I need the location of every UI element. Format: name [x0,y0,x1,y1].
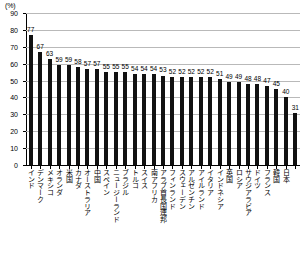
bar-slot[interactable]: 47 [262,13,271,165]
bar-value-label: 54 [131,65,138,72]
bar[interactable] [227,82,231,165]
bar-slot[interactable]: 63 [45,13,54,165]
bar[interactable] [237,82,241,165]
y-axis-tick-label: 50 [0,78,18,85]
bar-slot[interactable]: 49 [224,13,233,165]
x-axis-category-label: スイス [140,169,148,189]
bar-slot[interactable]: 55 [111,13,120,165]
y-axis-tick-label: 40 [0,94,18,101]
bar[interactable] [274,89,278,165]
bar[interactable] [208,77,212,165]
x-axis-category-label: オランダ [55,169,63,196]
bar[interactable] [218,79,222,165]
bar-value-label: 51 [216,70,223,77]
y-axis-tick-label: 80 [0,27,18,34]
bar-value-label: 48 [254,75,261,82]
bar[interactable] [199,77,203,165]
y-axis-tick-label: 10 [0,145,18,152]
x-axis-category-label: インド [27,169,35,189]
bar-slot[interactable]: 49 [234,13,243,165]
x-axis-category-label: ブラジル [121,169,129,196]
bar[interactable] [170,77,174,165]
bar[interactable] [85,69,89,165]
bar-slot[interactable]: 58 [73,13,82,165]
bar-slot[interactable]: 31 [291,13,300,165]
y-axis-tick-label: 70 [0,44,18,51]
bar-slot[interactable]: 48 [243,13,252,165]
bar-slot[interactable]: 57 [92,13,101,165]
bar-slot[interactable]: 54 [130,13,139,165]
y-axis-tick-label: 60 [0,61,18,68]
x-axis-category-label: フィンランド [168,169,176,209]
bar[interactable] [38,52,42,165]
bar[interactable] [114,72,118,165]
bar-value-label: 55 [122,63,129,70]
bar[interactable] [284,97,288,165]
x-axis-category-label: 中国 [93,169,101,182]
plot-area: 0102030405060708090 77676359595857575555… [26,13,300,165]
bar-value-label: 58 [74,58,81,65]
bar-value-label: 49 [235,73,242,80]
bar[interactable] [161,76,165,166]
bar-slot[interactable]: 48 [253,13,262,165]
bar-slot[interactable]: 67 [35,13,44,165]
bar-value-label: 77 [27,26,34,33]
bar[interactable] [29,35,33,165]
x-axis-labels: インドデンマークメキシコオランダ米国カナダオーストラリア中国スペインニュージーラ… [26,169,300,255]
x-axis-category-label: サウジアラビア [244,169,252,216]
bar-slot[interactable]: 55 [120,13,129,165]
x-axis-category-label: 米国 [65,169,73,182]
bar-slot[interactable]: 59 [64,13,73,165]
bar[interactable] [293,113,297,165]
bar-slot[interactable]: 52 [177,13,186,165]
bar-slot[interactable]: 59 [54,13,63,165]
bar-slot[interactable]: 54 [149,13,158,165]
y-axis-tick-label: 90 [0,10,18,17]
bar-value-label: 52 [207,68,214,75]
bar-slot[interactable]: 52 [187,13,196,165]
bar-value-label: 48 [244,75,251,82]
bar-slot[interactable]: 40 [281,13,290,165]
bar[interactable] [142,74,146,165]
bar[interactable] [67,65,71,165]
bar-value-label: 52 [197,68,204,75]
bar[interactable] [95,69,99,165]
bar[interactable] [104,72,108,165]
bar-slot[interactable]: 52 [196,13,205,165]
bar[interactable] [123,72,127,165]
bar[interactable] [246,84,250,165]
x-axis-category-label: カナダ [74,169,82,189]
bar-value-label: 52 [188,68,195,75]
x-axis-category-label: アラブ首長国連邦 [159,169,167,223]
bar-slot[interactable]: 52 [206,13,215,165]
bar[interactable] [48,59,52,165]
bar-slot[interactable]: 54 [139,13,148,165]
x-axis-category-label: メキシコ [46,169,54,196]
bar[interactable] [180,77,184,165]
bar-slot[interactable]: 55 [102,13,111,165]
bar[interactable] [133,74,137,165]
bar[interactable] [255,84,259,165]
x-axis-category-label: イタリア [206,169,214,196]
bar-slot[interactable]: 77 [26,13,35,165]
bar[interactable] [57,65,61,165]
bar[interactable] [152,74,156,165]
bar-slot[interactable]: 57 [83,13,92,165]
bar[interactable] [76,67,80,165]
x-axis-category-label: スウェーデン [178,169,186,209]
bar-value-label: 45 [273,80,280,87]
x-axis-category-label: アイルランド [197,169,205,209]
bar[interactable] [189,77,193,165]
y-axis-tick-label: 0 [0,162,18,169]
x-axis-category-label: デンマーク [36,169,44,203]
bar-value-label: 31 [292,104,299,111]
bar[interactable] [265,86,269,165]
bar-value-label: 49 [226,73,233,80]
bar-slot[interactable]: 52 [168,13,177,165]
bar-value-label: 54 [140,65,147,72]
bar-value-label: 55 [112,63,119,70]
bar-slot[interactable]: 45 [272,13,281,165]
bar-slot[interactable]: 53 [158,13,167,165]
bar-slot[interactable]: 51 [215,13,224,165]
bar-value-label: 54 [150,65,157,72]
